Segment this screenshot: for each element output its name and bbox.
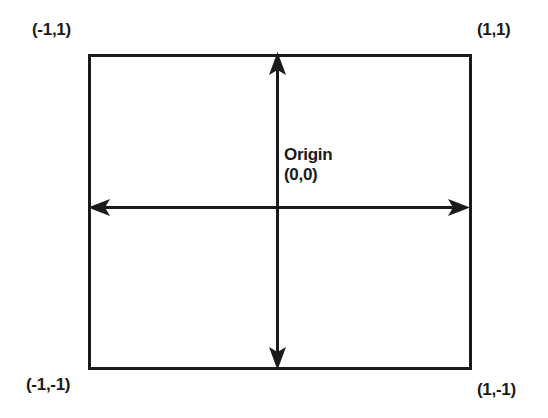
corner-label-bottom-left: (-1,-1) xyxy=(26,376,70,393)
coordinate-box xyxy=(90,56,471,369)
corner-label-bottom-right: (1,-1) xyxy=(477,381,516,398)
origin-label-title: Origin xyxy=(284,145,332,165)
corner-label-top-right: (1,1) xyxy=(477,21,510,38)
corner-label-top-left: (-1,1) xyxy=(32,21,71,38)
coordinate-diagram: (-1,1) (1,1) (-1,-1) (1,-1) Origin (0,0) xyxy=(0,0,548,418)
diagram-canvas xyxy=(0,0,548,418)
origin-label-group: Origin (0,0) xyxy=(284,145,332,185)
origin-label-coordinates: (0,0) xyxy=(284,165,332,185)
